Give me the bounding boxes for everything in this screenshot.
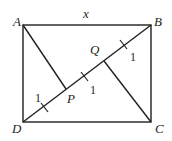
diagonal-db bbox=[23, 25, 151, 122]
segment-label-qb: 1 bbox=[130, 50, 136, 64]
vertex-label-a: A bbox=[12, 14, 21, 29]
segment-ap bbox=[23, 25, 66, 89]
rectangle-diagram: A B C D P Q x 1 1 1 bbox=[0, 0, 172, 141]
vertex-label-b: B bbox=[154, 14, 162, 29]
segment-label-pq: 1 bbox=[90, 83, 96, 97]
point-label-p: P bbox=[66, 91, 75, 106]
segment-cq bbox=[104, 61, 151, 122]
side-label-x: x bbox=[82, 6, 89, 21]
point-label-q: Q bbox=[90, 42, 100, 57]
vertex-label-c: C bbox=[155, 121, 164, 136]
vertex-label-d: D bbox=[11, 121, 22, 136]
segment-label-dp: 1 bbox=[35, 91, 41, 105]
